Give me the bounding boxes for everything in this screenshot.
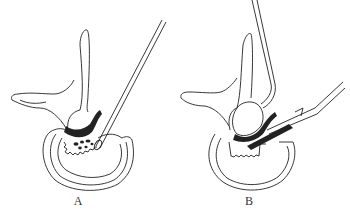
panel-label-b: B xyxy=(239,194,259,209)
vertebra-illustration-b xyxy=(175,0,350,218)
panel-label-a: A xyxy=(68,194,88,209)
panel-b: B xyxy=(175,0,350,218)
panel-a: A xyxy=(0,0,175,218)
vertebra-illustration-a xyxy=(0,0,175,218)
